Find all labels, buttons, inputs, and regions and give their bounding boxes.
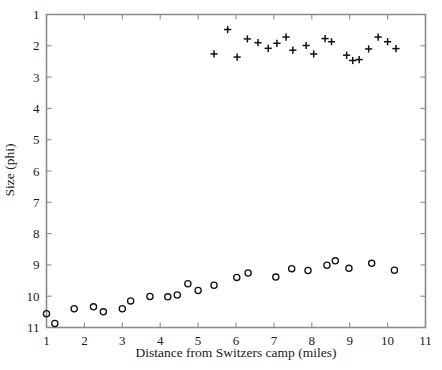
data-point-plus: [303, 42, 310, 49]
data-point-circle: [369, 260, 375, 266]
y-tick-label: 7: [33, 195, 40, 210]
plot-canvas: 1234567891011 1234567891011 Distance fro…: [0, 0, 442, 370]
y-tick-label: 3: [33, 70, 40, 85]
data-point-circle: [245, 270, 251, 276]
data-point-plus: [365, 45, 372, 52]
data-point-plus: [321, 35, 328, 42]
data-point-circle: [195, 287, 201, 293]
data-point-circle: [100, 309, 106, 315]
series-circle-markers: [43, 258, 397, 327]
data-point-circle: [147, 293, 153, 299]
data-point-circle: [324, 262, 330, 268]
data-point-circle: [346, 265, 352, 271]
data-point-plus: [356, 56, 363, 63]
data-point-circle: [174, 292, 180, 298]
data-point-plus: [310, 50, 317, 57]
x-tick-label: 11: [419, 333, 432, 348]
x-axis-ticks: 1234567891011: [43, 15, 432, 348]
y-axis-title: Size (phi): [2, 144, 17, 197]
x-tick-label: 10: [381, 333, 394, 348]
data-point-plus: [265, 45, 272, 52]
data-point-circle: [90, 304, 96, 310]
y-axis-ticks: 1234567891011: [27, 7, 426, 335]
data-point-circle: [305, 267, 311, 273]
data-point-circle: [391, 267, 397, 273]
x-tick-label: 3: [119, 333, 126, 348]
data-point-plus: [328, 38, 335, 45]
series-plus-markers: [210, 26, 399, 64]
data-point-circle: [332, 258, 338, 264]
data-point-plus: [289, 47, 296, 54]
data-point-plus: [282, 33, 289, 40]
data-point-circle: [165, 294, 171, 300]
y-tick-label: 2: [33, 38, 40, 53]
y-tick-label: 6: [33, 164, 40, 179]
data-point-plus: [210, 50, 217, 57]
data-point-plus: [273, 40, 280, 47]
data-point-circle: [71, 306, 77, 312]
x-axis-title: Distance from Switzers camp (miles): [136, 345, 337, 360]
x-tick-label: 9: [346, 333, 353, 348]
y-tick-label: 8: [33, 226, 40, 241]
y-tick-label: 4: [33, 101, 40, 116]
data-point-plus: [392, 45, 399, 52]
scatter-plot-figure: 1234567891011 1234567891011 Distance fro…: [0, 0, 442, 370]
data-point-plus: [343, 52, 350, 59]
x-tick-label: 1: [43, 333, 50, 348]
data-point-plus: [224, 26, 231, 33]
x-tick-label: 2: [81, 333, 88, 348]
data-point-plus: [244, 35, 251, 42]
y-tick-label: 5: [33, 132, 40, 147]
y-tick-label: 10: [27, 289, 40, 304]
data-point-circle: [185, 281, 191, 287]
data-point-plus: [384, 38, 391, 45]
data-point-plus: [254, 39, 261, 46]
data-point-plus: [349, 57, 356, 64]
y-tick-label: 11: [27, 320, 40, 335]
data-point-circle: [289, 266, 295, 272]
data-point-circle: [52, 320, 58, 326]
y-tick-label: 9: [33, 257, 40, 272]
data-point-circle: [234, 274, 240, 280]
y-tick-label: 1: [33, 7, 40, 22]
data-point-circle: [119, 306, 125, 312]
data-point-circle: [211, 282, 217, 288]
data-point-circle: [128, 298, 134, 304]
data-point-plus: [234, 53, 241, 60]
data-point-plus: [375, 33, 382, 40]
data-point-circle: [273, 274, 279, 280]
